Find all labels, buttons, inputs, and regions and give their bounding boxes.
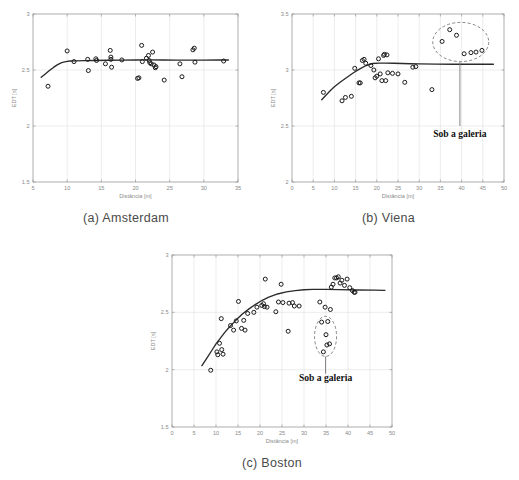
y-tick-label: 3.5	[281, 11, 289, 17]
panel-caption-amsterdam: (a) Amsterdam	[0, 211, 252, 225]
data-series-1	[440, 28, 484, 56]
x-tick-label: 30	[301, 430, 307, 436]
x-tick-label: 45	[367, 430, 373, 436]
annotation-label: Sob a galeria	[433, 128, 487, 139]
y-tick-label: 2.5	[281, 123, 289, 129]
data-point	[110, 65, 114, 69]
data-point	[243, 328, 247, 332]
y-tick-label: 1.5	[161, 424, 169, 430]
grid-lines	[33, 14, 238, 182]
data-point	[349, 94, 353, 98]
scatter-chart-boston: 051015202530354045501.522.53Distância [m…	[132, 240, 412, 455]
x-axis: 05101520253035404550	[290, 14, 507, 191]
y-axis-title: EDT [s]	[150, 331, 156, 350]
data-point	[326, 320, 330, 324]
data-point	[86, 69, 90, 73]
data-point	[265, 305, 269, 309]
data-point	[281, 301, 285, 305]
y-axis-title: EDT [s]	[270, 88, 276, 107]
data-point	[209, 368, 213, 372]
x-tick-label: 40	[458, 185, 464, 191]
data-point	[255, 305, 259, 309]
data-series-1	[320, 320, 332, 354]
data-point	[353, 66, 357, 70]
data-point	[342, 283, 346, 287]
grid-lines	[172, 255, 392, 427]
x-tick-label: 15	[98, 185, 104, 191]
data-point	[178, 62, 182, 66]
data-point	[386, 71, 390, 75]
data-point	[455, 33, 459, 37]
fit-line	[322, 63, 494, 100]
data-point	[377, 57, 381, 61]
data-point	[263, 277, 267, 281]
highlight-ellipse	[433, 22, 489, 61]
data-point	[343, 95, 347, 99]
y-tick-label: 3	[165, 252, 168, 258]
panel-caption-boston: (c) Boston	[132, 456, 412, 470]
data-point	[474, 50, 478, 54]
data-point	[318, 300, 322, 304]
chart-panel-boston: 051015202530354045501.522.53Distância [m…	[132, 240, 412, 480]
x-axis: 5101520253035	[31, 14, 241, 191]
data-point	[440, 39, 444, 43]
x-tick-label: 25	[167, 185, 173, 191]
x-tick-label: 10	[213, 430, 219, 436]
data-point	[323, 305, 327, 309]
data-point	[220, 348, 224, 352]
x-tick-label: 5	[31, 185, 34, 191]
data-point	[219, 317, 223, 321]
data-point	[221, 352, 225, 356]
data-point	[364, 61, 368, 65]
x-tick-label: 10	[64, 185, 70, 191]
data-point	[390, 71, 394, 75]
x-tick-label: 50	[501, 185, 507, 191]
data-point	[340, 99, 344, 103]
x-tick-label: 5	[192, 430, 195, 436]
x-tick-label: 30	[201, 185, 207, 191]
y-tick-label: 2	[165, 367, 168, 373]
x-tick-label: 35	[437, 185, 443, 191]
y-tick-label: 2	[26, 123, 29, 129]
x-tick-label: 50	[389, 430, 395, 436]
data-point	[462, 52, 466, 56]
data-point	[180, 75, 184, 79]
x-tick-label: 5	[312, 185, 315, 191]
x-tick-label: 25	[395, 185, 401, 191]
data-point	[403, 80, 407, 84]
x-tick-label: 0	[290, 185, 293, 191]
data-point	[103, 62, 107, 66]
data-point	[320, 320, 324, 324]
x-axis-title: Distância [m]	[382, 193, 415, 199]
y-axis-title: EDT [s]	[11, 88, 17, 107]
data-point	[162, 78, 166, 82]
chart-panel-viena: 0510152025303540455022.533.5Distância [m…	[258, 0, 519, 232]
data-point	[279, 282, 283, 286]
fit-line	[41, 60, 228, 77]
data-point	[276, 300, 280, 304]
y-axis: 1.522.53	[161, 252, 392, 430]
data-point	[274, 310, 278, 314]
x-tick-label: 15	[352, 185, 358, 191]
data-point	[328, 307, 332, 311]
x-tick-label: 0	[170, 430, 173, 436]
data-point	[218, 341, 222, 345]
panel-caption-viena: (b) Viena	[258, 211, 519, 225]
y-tick-label: 2.5	[161, 309, 169, 315]
y-axis: 22.533.5	[281, 11, 504, 185]
data-point	[46, 84, 50, 88]
scatter-chart-amsterdam: 51015202530351.522.53Distância [m]EDT [s…	[0, 0, 252, 210]
data-point	[286, 329, 290, 333]
data-point	[345, 277, 349, 281]
x-axis-title: Distância [m]	[119, 193, 152, 199]
data-series-0	[46, 43, 226, 88]
x-axis: 05101520253035404550	[170, 255, 395, 436]
data-point	[140, 43, 144, 47]
y-tick-label: 2	[285, 179, 288, 185]
x-tick-label: 20	[374, 185, 380, 191]
data-point	[236, 299, 240, 303]
y-tick-label: 3	[26, 11, 29, 17]
y-tick-label: 1.5	[22, 179, 30, 185]
annotation-label: Sob a galeria	[299, 372, 353, 383]
data-point	[469, 51, 473, 55]
